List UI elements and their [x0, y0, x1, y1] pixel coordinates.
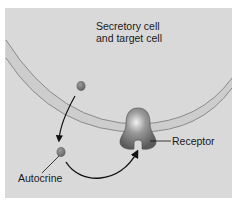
receptor-label: Receptor [172, 135, 215, 147]
autocrine-binding-arrow [66, 152, 137, 178]
autocrine-leader-line [42, 156, 59, 173]
receptor-protein [120, 108, 156, 149]
cell-membrane [6, 40, 232, 132]
autocrine-label: Autocrine [18, 172, 62, 184]
title-line-1: Secretory cell [96, 20, 162, 32]
diagram-title: Secretory cell and target cell [96, 20, 162, 44]
title-line-2: and target cell [96, 32, 162, 44]
signal-molecule-inside [77, 81, 86, 91]
signal-molecule-secreted [57, 147, 66, 157]
